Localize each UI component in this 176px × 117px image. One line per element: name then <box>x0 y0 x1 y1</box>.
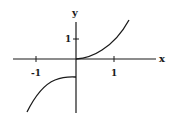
x-tick-label-pos1: 1 <box>111 68 117 78</box>
x-tick-label-neg1: -1 <box>31 68 41 78</box>
y-axis-label: y <box>71 7 79 18</box>
x-axis-label: x <box>159 53 166 64</box>
function-graph: x y -1 1 1 <box>0 0 176 117</box>
curve-left-branch <box>27 77 76 112</box>
y-tick-label-pos1: 1 <box>65 34 71 44</box>
curve-right-branch <box>76 20 129 59</box>
